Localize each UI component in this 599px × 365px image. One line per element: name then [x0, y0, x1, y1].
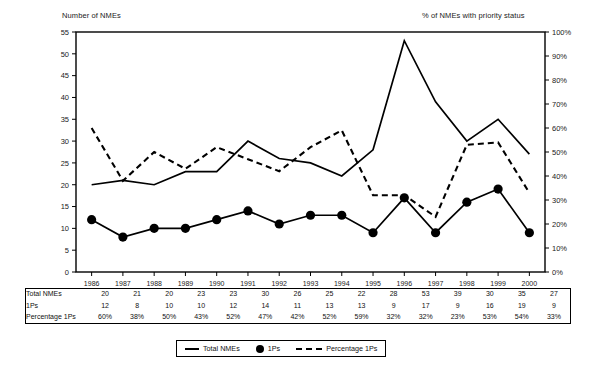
data-point-marker	[462, 198, 471, 207]
table-cell: 35	[506, 289, 538, 300]
left-tick-label: 15	[61, 202, 69, 211]
x-tick-label: 1994	[334, 280, 350, 287]
right-tick-label: 20%	[552, 220, 567, 229]
data-point-marker	[337, 211, 346, 220]
legend-item: Percentage 1Ps	[296, 344, 377, 353]
left-tick-label: 45	[61, 71, 69, 80]
table-cell: 53	[410, 289, 442, 300]
table-cell: 32%	[378, 312, 410, 323]
x-tick-label: 1986	[84, 280, 100, 287]
table-cell: 10	[153, 300, 185, 311]
dashed-line-icon	[296, 348, 322, 350]
right-tick-label: 10%	[552, 244, 567, 253]
table-cell: 11	[281, 300, 313, 311]
table-cell: 20	[89, 289, 121, 300]
legend-item: Total NMEs	[185, 344, 240, 353]
x-tick-label: 1987	[115, 280, 131, 287]
left-tick-label: 25	[61, 159, 69, 168]
chart-container: Number of NMEs % of NMEs with priority s…	[0, 0, 599, 365]
table-cell: 23	[217, 289, 249, 300]
solid-line-icon	[185, 348, 199, 350]
data-point-marker	[306, 211, 315, 220]
table-cell: 22	[346, 289, 378, 300]
table-row-label: 1Ps	[26, 300, 89, 311]
table-cell: 32%	[410, 312, 442, 323]
left-tick-label: 30	[61, 137, 69, 146]
data-point-marker	[181, 224, 190, 233]
x-tick-label: 2000	[522, 280, 538, 287]
table-cell: 30	[249, 289, 281, 300]
left-tick-label: 20	[61, 181, 69, 190]
table-cell: 26	[281, 289, 313, 300]
table-row: Total NMEs202120232330262522285339303527	[26, 289, 570, 300]
table-cell: 13	[346, 300, 378, 311]
right-tick-label: 0%	[552, 268, 563, 277]
x-tick-label: 1995	[365, 280, 381, 287]
x-tick-label: 1991	[240, 280, 256, 287]
table-row: Percentage 1Ps60%38%50%43%52%47%42%52%59…	[26, 312, 570, 323]
table-cell: 42%	[281, 312, 313, 323]
table-cell: 19	[506, 300, 538, 311]
table-cell: 13	[313, 300, 345, 311]
x-tick-label: 1997	[428, 280, 444, 287]
table-cell: 60%	[89, 312, 121, 323]
table-cell: 17	[410, 300, 442, 311]
table-cell: 54%	[506, 312, 538, 323]
table-row-label: Percentage 1Ps	[26, 312, 89, 323]
x-tick-label: 1996	[397, 280, 413, 287]
data-point-marker	[431, 228, 440, 237]
series-line-total-nmes	[92, 41, 530, 185]
table-cell: 25	[313, 289, 345, 300]
data-point-marker	[275, 219, 284, 228]
right-tick-label: 80%	[552, 76, 567, 85]
table-cell: 27	[538, 289, 570, 300]
plot-area: 05101520253035404550550%10%20%30%40%50%6…	[0, 0, 599, 300]
table-cell: 52%	[217, 312, 249, 323]
table-row-label: Total NMEs	[26, 289, 89, 300]
data-point-marker	[243, 206, 252, 215]
table-cell: 53%	[474, 312, 506, 323]
right-tick-label: 60%	[552, 124, 567, 133]
table-cell: 23	[185, 289, 217, 300]
x-tick-label: 1992	[271, 280, 287, 287]
table-cell: 39	[442, 289, 474, 300]
data-point-marker	[212, 215, 221, 224]
left-tick-label: 5	[65, 246, 69, 255]
data-table: Total NMEs202120232330262522285339303527…	[25, 288, 571, 324]
right-tick-label: 70%	[552, 100, 567, 109]
left-tick-label: 50	[61, 50, 69, 59]
chart-legend: Total NMEs1PsPercentage 1Ps	[176, 340, 386, 357]
table-cell: 33%	[538, 312, 570, 323]
left-tick-label: 40	[61, 93, 69, 102]
table-cell: 20	[153, 289, 185, 300]
table-cell: 23%	[442, 312, 474, 323]
table-cell: 16	[474, 300, 506, 311]
table-cell: 9	[378, 300, 410, 311]
table-cell: 59%	[346, 312, 378, 323]
legend-item-label: Percentage 1Ps	[326, 344, 377, 353]
table-cell: 50%	[153, 312, 185, 323]
filled-circle-icon	[256, 345, 264, 353]
data-point-marker	[87, 215, 96, 224]
data-point-marker	[494, 184, 503, 193]
data-point-marker	[525, 228, 534, 237]
table-cell: 9	[442, 300, 474, 311]
table-cell: 10	[185, 300, 217, 311]
table-row: 1Ps12810101214111313917916199	[26, 300, 570, 311]
x-tick-label: 1989	[178, 280, 194, 287]
data-point-marker	[118, 232, 127, 241]
left-tick-label: 35	[61, 115, 69, 124]
x-tick-label: 1998	[459, 280, 475, 287]
table-cell: 9	[538, 300, 570, 311]
left-tick-label: 0	[65, 268, 69, 277]
x-tick-label: 1990	[209, 280, 225, 287]
table-cell: 38%	[121, 312, 153, 323]
right-tick-label: 50%	[552, 148, 567, 157]
legend-item-label: 1Ps	[268, 344, 280, 353]
table-cell: 12	[89, 300, 121, 311]
left-tick-label: 10	[61, 224, 69, 233]
table-cell: 43%	[185, 312, 217, 323]
left-tick-label: 55	[61, 28, 69, 37]
legend-item-label: Total NMEs	[203, 344, 240, 353]
table-cell: 21	[121, 289, 153, 300]
